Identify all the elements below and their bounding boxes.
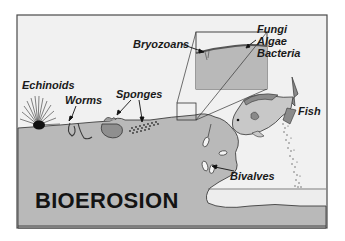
label-bivalves: Bivalves — [230, 171, 275, 182]
label-bryozoans: Bryozoans — [133, 39, 189, 50]
label-worms: Worms — [65, 95, 102, 106]
label-sponges: Sponges — [116, 89, 162, 100]
diagram-title: BIOEROSION — [35, 188, 179, 214]
label-echinoids: Echinoids — [22, 80, 75, 91]
label-fungi: Fungi — [257, 24, 287, 35]
label-algae: Algae — [257, 36, 287, 47]
label-fish: Fish — [298, 106, 321, 117]
label-bacteria: Bacteria — [257, 48, 300, 59]
